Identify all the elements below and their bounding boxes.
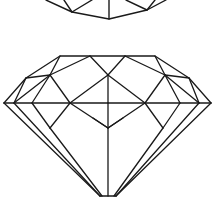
diamond-illustration (0, 0, 215, 203)
partial-diamond-top (46, 0, 166, 19)
diamond-main (4, 56, 211, 196)
